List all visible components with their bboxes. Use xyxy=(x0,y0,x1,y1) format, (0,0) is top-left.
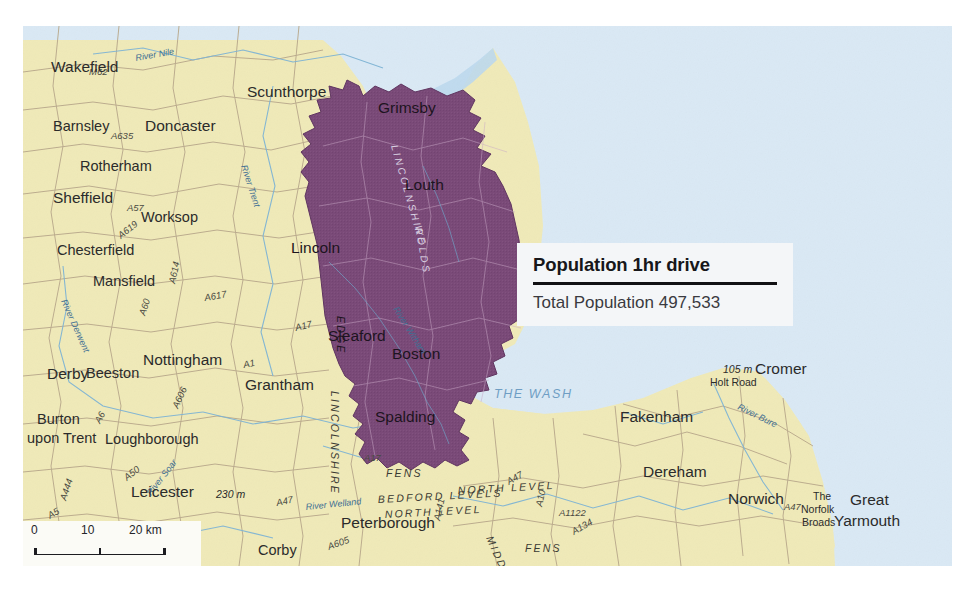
town-label[interactable]: Great xyxy=(850,491,889,508)
town-label[interactable]: Wakefield xyxy=(51,58,118,75)
town-label[interactable]: Loughborough xyxy=(105,431,199,447)
town-label[interactable]: Peterborough xyxy=(341,514,435,531)
town-label[interactable]: Sleaford xyxy=(328,327,386,344)
town-label[interactable]: Louth xyxy=(405,176,444,193)
spot-label: Holt Road xyxy=(710,376,757,388)
town-label[interactable]: Corby xyxy=(258,542,297,558)
scale-bar-numbers: 0 10 20 km xyxy=(23,521,201,539)
scale-zero: 0 xyxy=(31,523,38,537)
spot-label: Norfolk xyxy=(801,503,835,515)
region-label: FENS xyxy=(386,467,423,479)
town-label[interactable]: Derby xyxy=(47,365,89,382)
spot-label: Broads xyxy=(802,516,835,528)
town-label[interactable]: Grantham xyxy=(245,376,314,393)
callout-rule xyxy=(533,282,777,285)
town-label[interactable]: Scunthorpe xyxy=(247,83,326,100)
town-label[interactable]: Worksop xyxy=(141,209,198,225)
town-label[interactable]: Boston xyxy=(392,345,440,362)
town-label[interactable]: Leicester xyxy=(131,483,194,500)
town-label[interactable]: Fakenham xyxy=(620,408,693,425)
road-label: A1122 xyxy=(558,507,586,518)
town-label[interactable]: Doncaster xyxy=(145,117,216,134)
region-label: FENS xyxy=(525,542,562,554)
town-label[interactable]: Norwich xyxy=(728,490,784,507)
town-label[interactable]: Barnsley xyxy=(53,118,110,134)
town-label[interactable]: Dereham xyxy=(643,463,707,480)
town-label[interactable]: Rotherham xyxy=(80,158,152,174)
town-label[interactable]: Yarmouth xyxy=(834,512,900,529)
spot-label: The xyxy=(813,490,831,502)
road-label: A47 xyxy=(783,501,802,512)
town-label[interactable]: Cromer xyxy=(755,360,807,377)
town-label[interactable]: Nottingham xyxy=(143,351,222,368)
scale-bar-line xyxy=(34,548,166,555)
road-label: A635 xyxy=(110,130,134,141)
road-label: A17 xyxy=(363,452,382,463)
town-label[interactable]: Burton xyxy=(37,411,80,427)
town-label[interactable]: Grimsby xyxy=(378,99,436,116)
spot-label: 105 m xyxy=(723,363,752,375)
town-label[interactable]: Beeston xyxy=(86,365,139,381)
scale-end: 20 km xyxy=(129,523,162,537)
population-callout: Population 1hr drive Total Population 49… xyxy=(517,243,793,326)
town-label[interactable]: upon Trent xyxy=(27,430,96,446)
region-label: LINCOLNSHIRE xyxy=(329,391,341,495)
callout-title: Population 1hr drive xyxy=(533,254,777,276)
map-canvas[interactable]: THE WASHLINCOLNSHIREEDGELINCOLNSHIREWOLD… xyxy=(23,26,952,566)
map-figure: and conclusions xyxy=(0,0,971,590)
town-label[interactable]: Chesterfield xyxy=(57,242,134,258)
spot-label: 230 m xyxy=(215,488,245,500)
scale-mid: 10 xyxy=(81,523,94,537)
town-label[interactable]: Sheffield xyxy=(53,189,113,206)
callout-subtitle: Total Population 497,533 xyxy=(533,293,777,313)
town-label[interactable]: Spalding xyxy=(375,408,435,425)
scale-bar: 0 10 20 km xyxy=(23,521,201,566)
region-label: THE WASH xyxy=(494,387,573,401)
town-label[interactable]: Mansfield xyxy=(93,273,155,289)
town-label[interactable]: Lincoln xyxy=(291,239,340,256)
